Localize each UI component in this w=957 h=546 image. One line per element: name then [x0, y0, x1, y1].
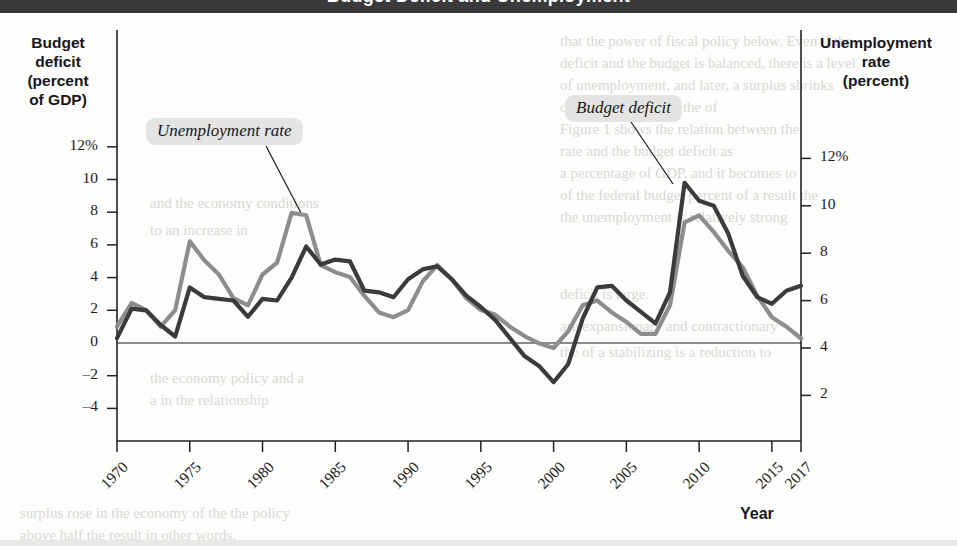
right-tick-label: 8 — [820, 242, 828, 260]
x-axis-title: Year — [740, 505, 774, 523]
left-tick-label: 4 — [52, 267, 98, 285]
left-tick-label: –4 — [52, 397, 98, 415]
right-tick-label: 2 — [820, 384, 828, 402]
left-tick-label: –2 — [52, 365, 98, 383]
left-tick-label: 12% — [52, 136, 98, 154]
left-tick-label: 6 — [52, 234, 98, 252]
leader-unemployment — [266, 146, 301, 213]
x-axis-ticks — [117, 441, 801, 452]
figure-page: Budget Deficit and Unemployment that the… — [0, 0, 957, 546]
callout-budget-deficit: Budget deficit — [565, 95, 682, 122]
left-tick-label: 0 — [52, 332, 98, 350]
right-tick-label: 6 — [820, 290, 828, 308]
left-tick-label: 8 — [52, 201, 98, 219]
plot-area: 12%1086420–2–4 12%108642 197019751980198… — [0, 0, 957, 546]
right-axis-ticks — [801, 158, 811, 395]
leader-deficit — [631, 122, 673, 184]
right-tick-label: 10 — [820, 195, 836, 213]
left-tick-label: 2 — [52, 299, 98, 317]
callout-unemployment-rate: Unemployment rate — [146, 118, 303, 145]
left-tick-label: 10 — [52, 169, 98, 187]
callout-leader-lines — [266, 122, 673, 213]
unemployment-rate-line — [117, 213, 801, 348]
budget-deficit-line — [117, 183, 801, 382]
left-axis-ticks — [107, 147, 117, 409]
right-tick-label: 12% — [820, 147, 848, 165]
axis-lines — [117, 30, 801, 441]
right-tick-label: 4 — [820, 337, 828, 355]
